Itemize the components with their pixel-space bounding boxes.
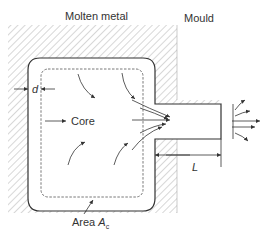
area-label: Area Ac	[72, 217, 109, 230]
mould-label: Mould	[184, 13, 214, 24]
molten-metal-label: Molten metal	[65, 11, 128, 22]
length-label: L	[192, 162, 198, 173]
area-symbol: A	[98, 216, 105, 228]
casting-outline	[28, 58, 221, 211]
thickness-label: d	[32, 84, 38, 95]
core-label: Core	[71, 116, 95, 127]
area-prefix: Area	[72, 216, 95, 228]
area-subscript: c	[106, 223, 110, 230]
casting-diagram	[0, 0, 272, 231]
